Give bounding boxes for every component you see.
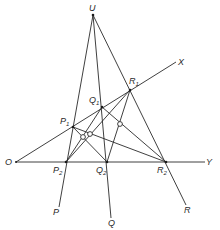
label-U: U bbox=[89, 3, 96, 13]
point-R2 bbox=[165, 161, 168, 164]
cross-point-marker bbox=[118, 122, 123, 127]
line-OX bbox=[16, 62, 176, 162]
label-Q1: Q1 bbox=[89, 95, 99, 106]
label-R1: R1 bbox=[129, 76, 139, 87]
label-O: O bbox=[5, 157, 12, 167]
point-P1 bbox=[72, 126, 75, 129]
label-Q: Q bbox=[108, 218, 115, 228]
label-Y: Y bbox=[206, 157, 213, 167]
label-P1: P1 bbox=[60, 116, 69, 127]
label-R: R bbox=[184, 205, 191, 215]
point-P2 bbox=[65, 161, 68, 164]
label-R2: R2 bbox=[157, 165, 168, 176]
cross-point-marker bbox=[88, 132, 93, 137]
label-P: P bbox=[53, 207, 59, 217]
label-P2: P2 bbox=[53, 165, 63, 176]
point-O bbox=[15, 161, 17, 163]
label-Q2: Q2 bbox=[96, 165, 107, 176]
line-P1R2 bbox=[73, 127, 166, 162]
line-UP bbox=[59, 15, 93, 207]
label-X: X bbox=[177, 57, 185, 67]
point-Q1 bbox=[101, 106, 104, 109]
projective-diagram: U X Y O P Q R R1 Q1 P1 P2 Q2 R2 bbox=[0, 0, 220, 230]
point-Q2 bbox=[106, 161, 109, 164]
point-U bbox=[92, 14, 95, 17]
point-R1 bbox=[129, 89, 132, 92]
line-Q1R2 bbox=[102, 107, 166, 162]
cross-point-marker bbox=[81, 135, 86, 140]
